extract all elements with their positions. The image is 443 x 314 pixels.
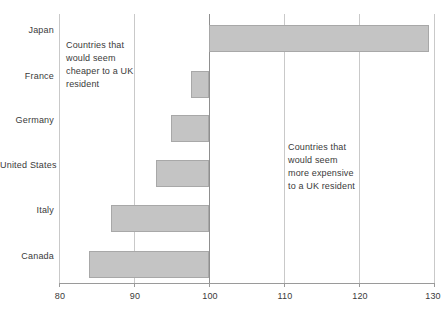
tick-mark-130: [434, 283, 435, 287]
tick-mark-110: [284, 283, 285, 287]
bar-france: [191, 71, 209, 98]
annotation-cheaper: Countries that would seem cheaper to a U…: [66, 39, 150, 91]
x-tick-label-130: 130: [425, 291, 441, 301]
bar-canada: [89, 251, 209, 278]
annotation-cheaper-line-3: cheaper to a UK: [66, 65, 150, 78]
y-category-label-germany: Germany: [0, 115, 54, 125]
x-axis-line: [59, 283, 435, 284]
annotation-more-expensive-line-4: to a UK resident: [288, 180, 380, 193]
gridline-80: [59, 14, 60, 283]
annotation-cheaper-line-2: would seem: [66, 52, 150, 65]
annotation-more-expensive-line-3: more expensive: [288, 167, 380, 180]
x-tick-label-80: 80: [55, 291, 65, 301]
annotation-more-expensive: Countries that would seem more expensive…: [288, 141, 380, 193]
gridline-100-baseline: [209, 14, 210, 283]
annotation-more-expensive-line-2: would seem: [288, 154, 380, 167]
bar-germany: [171, 115, 209, 142]
annotation-cheaper-line-4: resident: [66, 78, 150, 91]
bar-japan: [209, 25, 429, 52]
tick-mark-90: [134, 283, 135, 287]
x-tick-label-120: 120: [352, 291, 368, 301]
x-tick-label-110: 110: [278, 291, 293, 301]
x-tick-label-90: 90: [130, 291, 140, 301]
y-category-label-italy: Italy: [0, 205, 54, 215]
gridline-110: [284, 14, 285, 283]
y-category-label-france: France: [0, 71, 54, 81]
tick-mark-120: [359, 283, 360, 287]
gridline-130: [434, 14, 435, 283]
y-category-label-united-states: United States: [0, 160, 54, 170]
tick-mark-100: [209, 283, 210, 287]
y-category-label-canada: Canada: [0, 251, 54, 261]
y-category-label-japan: Japan: [0, 25, 54, 35]
x-tick-label-100: 100: [202, 291, 218, 301]
annotation-more-expensive-line-1: Countries that: [288, 141, 380, 154]
bar-italy: [111, 205, 209, 232]
tick-mark-80: [59, 283, 60, 287]
annotation-cheaper-line-1: Countries that: [66, 39, 150, 52]
chart-page: 80 90 100 110 120 130 Japan France Germa…: [0, 0, 443, 314]
bar-united-states: [156, 160, 209, 187]
